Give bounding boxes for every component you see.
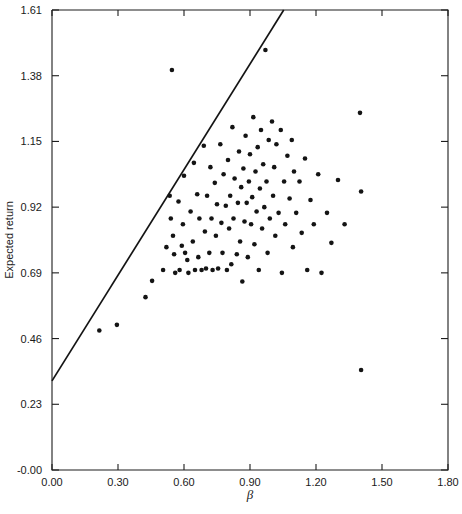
data-point xyxy=(195,192,200,197)
data-point xyxy=(252,242,257,247)
data-point xyxy=(169,216,174,221)
data-point xyxy=(255,145,260,150)
data-point xyxy=(248,152,253,157)
data-point xyxy=(171,233,176,238)
data-point xyxy=(312,222,317,227)
data-point xyxy=(176,199,181,204)
data-point xyxy=(272,165,277,170)
data-point xyxy=(215,202,220,207)
data-point xyxy=(204,266,209,271)
data-point xyxy=(225,268,230,273)
data-point xyxy=(235,252,240,257)
data-point xyxy=(213,181,218,186)
y-tick-label: 0.23 xyxy=(21,398,42,410)
data-point xyxy=(240,279,245,284)
data-point xyxy=(236,201,241,206)
data-point xyxy=(224,203,229,208)
data-point xyxy=(207,251,212,256)
data-point xyxy=(115,323,120,328)
scatter-plot-figure: 0.000.300.600.901.201.501.80 -0.000.230.… xyxy=(0,0,462,514)
data-point xyxy=(246,255,251,260)
data-point xyxy=(173,271,178,276)
x-tick-label: 0.60 xyxy=(173,476,194,488)
data-point xyxy=(287,196,292,201)
data-point xyxy=(283,222,288,227)
data-point xyxy=(319,271,324,276)
data-point xyxy=(216,266,221,271)
data-point xyxy=(271,193,276,198)
data-point xyxy=(180,243,185,248)
data-point xyxy=(241,166,246,171)
data-point xyxy=(230,125,235,130)
y-tick-label: 0.92 xyxy=(21,201,42,213)
data-point xyxy=(219,221,224,226)
data-point xyxy=(239,185,244,190)
data-point xyxy=(242,219,247,224)
data-point xyxy=(263,48,268,53)
x-axis-title: β xyxy=(246,487,254,502)
y-tick-label: 1.15 xyxy=(21,135,42,147)
data-point xyxy=(308,198,313,203)
plot-canvas: 0.000.300.600.901.201.501.80 -0.000.230.… xyxy=(0,0,462,514)
data-point xyxy=(262,205,267,210)
data-point xyxy=(177,268,182,273)
data-point xyxy=(282,179,287,184)
y-axis-title: Expected return xyxy=(3,201,15,279)
y-tick-label: 1.61 xyxy=(21,4,42,16)
data-point xyxy=(273,233,278,238)
data-point xyxy=(260,226,265,231)
data-point xyxy=(264,179,269,184)
data-point xyxy=(172,252,177,257)
data-point xyxy=(205,193,210,198)
data-point xyxy=(249,222,254,227)
x-tick-label: 0.30 xyxy=(107,476,128,488)
data-point xyxy=(279,128,284,133)
data-point xyxy=(203,229,208,234)
data-point xyxy=(199,268,204,273)
data-point xyxy=(202,143,207,148)
data-point xyxy=(186,271,191,276)
y-tick-label: 0.46 xyxy=(21,333,42,345)
data-point xyxy=(257,268,262,273)
data-point xyxy=(161,268,166,273)
x-tick-label: 1.50 xyxy=(371,476,392,488)
data-point xyxy=(305,268,310,273)
data-point xyxy=(291,245,296,250)
data-point xyxy=(316,172,321,177)
data-point xyxy=(274,142,279,147)
data-point xyxy=(97,328,102,333)
data-point xyxy=(250,195,255,200)
data-point xyxy=(292,169,297,174)
data-point xyxy=(227,226,232,231)
data-point xyxy=(259,128,264,133)
data-point xyxy=(143,295,148,300)
data-point xyxy=(220,251,225,256)
data-point xyxy=(299,231,304,236)
data-point xyxy=(185,258,190,263)
data-point xyxy=(193,268,198,273)
data-point xyxy=(208,165,213,170)
data-point xyxy=(150,279,155,284)
data-point xyxy=(294,211,299,216)
data-point xyxy=(229,262,234,267)
data-point xyxy=(251,115,256,120)
data-point xyxy=(167,193,172,198)
data-point xyxy=(303,156,308,161)
data-point xyxy=(270,119,275,124)
y-tick-label: -0.00 xyxy=(17,464,42,476)
data-point xyxy=(181,222,186,227)
data-point xyxy=(261,162,266,167)
data-point xyxy=(268,216,273,221)
data-point xyxy=(226,158,231,163)
data-point xyxy=(359,189,364,194)
data-point xyxy=(276,211,281,216)
data-point xyxy=(265,251,270,256)
data-point xyxy=(192,161,197,166)
data-point xyxy=(183,251,188,256)
data-point xyxy=(280,271,285,276)
data-point xyxy=(254,209,259,214)
y-tick-label: 1.38 xyxy=(21,70,42,82)
data-point xyxy=(209,216,214,221)
data-point xyxy=(164,245,169,250)
data-point xyxy=(210,268,215,273)
